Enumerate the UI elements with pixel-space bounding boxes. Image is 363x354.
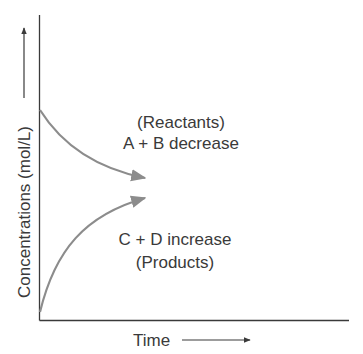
products-label: (Products) [136, 253, 214, 272]
reactants-trend-label: A + B decrease [123, 134, 239, 153]
products-trend-label: C + D increase [119, 230, 232, 249]
products-curve [40, 198, 145, 312]
y-axis-label: Concentrations (mol/L) [15, 126, 34, 298]
x-axis-label: Time [133, 331, 170, 350]
reactants-label: (Reactants) [137, 113, 225, 132]
diagram-canvas: (Reactants) A + B decrease C + D increas… [0, 0, 363, 354]
concentration-time-diagram: (Reactants) A + B decrease C + D increas… [0, 0, 363, 354]
